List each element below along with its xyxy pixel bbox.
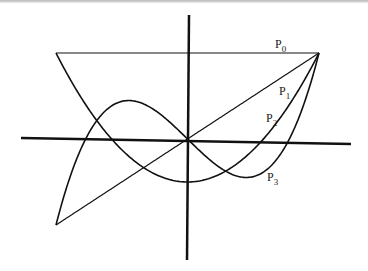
x-axis [21,138,351,144]
legendre-plot: P0P1P2P3 [0,0,368,271]
label-p0: P0 [275,37,287,54]
label-p3: P3 [267,170,279,187]
label-p2: P2 [266,111,277,128]
series-labels: P0P1P2P3 [266,37,290,187]
label-p1: P1 [279,84,290,101]
